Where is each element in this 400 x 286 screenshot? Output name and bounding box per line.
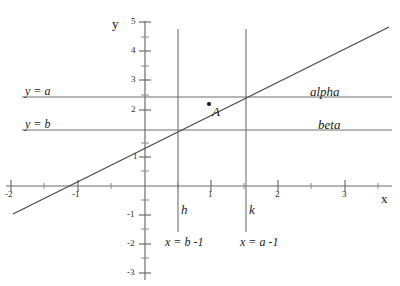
x-tick-label-2: 2 <box>275 190 280 199</box>
x-tick-label-neg2: -2 <box>5 190 13 199</box>
x-tick-label-3: 3 <box>342 190 347 199</box>
x-equals-a-minus-1-label: x = a -1 <box>240 236 278 248</box>
y-tick-label-3: 3 <box>131 75 136 84</box>
beta-label: beta <box>318 118 340 131</box>
y-tick-label-5: 5 <box>131 17 136 26</box>
point-a-marker <box>207 102 211 106</box>
alpha-label: alpha <box>310 85 340 98</box>
x-tick-label-1: 1 <box>208 190 213 199</box>
x-equals-b-minus-1-label: x = b -1 <box>165 236 203 248</box>
h-label: h <box>181 203 188 216</box>
point-a-label: A <box>212 105 220 118</box>
y-tick-label-neg3: -3 <box>127 268 135 277</box>
y-tick-label-4: 4 <box>131 46 136 55</box>
k-label: k <box>249 203 255 216</box>
figure-canvas: y x -2 -1 1 2 3 5 4 3 2 1 -1 -2 -3 y = a… <box>0 0 400 286</box>
y-tick-label-2: 2 <box>131 105 136 114</box>
y-equals-a-label: y = a <box>25 85 50 97</box>
x-axis-label: x <box>381 192 388 205</box>
y-axis-label: y <box>112 17 119 30</box>
y-equals-b-label: y = b <box>25 118 50 130</box>
x-tick-label-neg1: -1 <box>72 190 80 199</box>
y-tick-label-neg1: -1 <box>127 210 135 219</box>
y-tick-label-1: 1 <box>133 152 138 161</box>
y-tick-label-neg2: -2 <box>127 239 135 248</box>
